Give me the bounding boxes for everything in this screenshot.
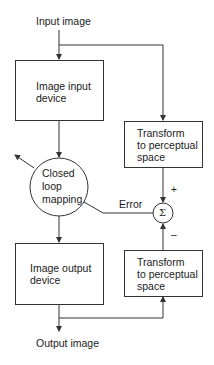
input-device-label-2: device [36, 92, 66, 105]
transform-top-label-3: space [137, 151, 165, 164]
mapping-label-2: loop [42, 180, 62, 193]
transform-top-label-2: to perceptual [137, 139, 198, 152]
input-image-label: Input image [36, 15, 91, 28]
error-label: Error [119, 198, 142, 211]
mapping-label-3: mapping [42, 193, 82, 206]
edge-output-to-transform [59, 297, 163, 318]
output-device-label-2: device [30, 274, 60, 287]
output-device-label-1: Image output [30, 262, 91, 275]
mapping-label-1: Closed [42, 167, 75, 180]
plus-sign: + [171, 185, 177, 195]
diagram-canvas [0, 0, 214, 365]
transform-top-label-1: Transform [137, 127, 184, 140]
sigma-symbol: Σ [159, 208, 166, 218]
output-image-label: Output image [36, 337, 99, 350]
minus-sign: – [171, 230, 177, 240]
transform-bottom-label-1: Transform [137, 256, 184, 269]
input-device-label-1: Image input [36, 80, 91, 93]
transform-bottom-label-3: space [137, 280, 165, 293]
transform-bottom-label-2: to perceptual [137, 268, 198, 281]
edge-mapping-adjust [15, 155, 34, 168]
